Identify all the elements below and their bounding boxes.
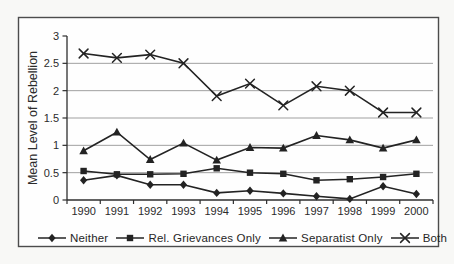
square-marker-icon — [80, 168, 86, 174]
x-tick-label: 1990 — [71, 205, 95, 217]
x-tick-label: 1996 — [271, 205, 295, 217]
y-axis-title: Mean Level of Rebellion — [26, 51, 40, 185]
square-marker-icon — [347, 176, 353, 182]
square-marker-icon — [280, 171, 286, 177]
legend-item-separatist-only: Separatist Only — [269, 232, 383, 244]
x-tick-label: 1992 — [138, 205, 162, 217]
legend-key-triangle — [269, 232, 297, 244]
x-tick-label: 1997 — [304, 205, 328, 217]
square-marker-icon — [247, 170, 253, 176]
x-tick-label: 1998 — [338, 205, 362, 217]
legend-label: Separatist Only — [301, 232, 383, 244]
square-marker-icon — [214, 165, 220, 171]
figure-canvas: 00.511.522.53 19901991199219931994199519… — [0, 0, 454, 264]
square-marker-icon — [413, 171, 419, 177]
legend-key-square — [116, 232, 144, 244]
legend-label: Both — [423, 232, 447, 244]
chart-legend: NeitherRel. Grievances OnlySeparatist On… — [48, 228, 437, 247]
legend-label: Rel. Grievances Only — [148, 232, 261, 244]
y-tick-label: 2.5 — [44, 57, 59, 69]
legend-item-neither: Neither — [38, 232, 108, 244]
square-marker-icon — [114, 171, 120, 177]
y-tick-label: 2 — [53, 85, 59, 97]
legend-key-x — [391, 232, 419, 244]
y-tick-label: 1 — [53, 139, 59, 151]
legend-key-diamond — [38, 232, 66, 244]
x-tick-label: 1999 — [371, 205, 395, 217]
y-tick-label: 1.5 — [44, 112, 59, 124]
legend-item-both: Both — [391, 232, 447, 244]
diamond-marker-icon — [48, 233, 55, 241]
x-tick-label: 2000 — [404, 205, 428, 217]
legend-label: Neither — [70, 232, 108, 244]
y-tick-label: 3 — [53, 30, 59, 42]
y-tick-label: 0.5 — [44, 167, 59, 179]
y-tick-label: 0 — [53, 194, 59, 206]
square-marker-icon — [127, 234, 133, 240]
legend-item-rel-grievances-only: Rel. Grievances Only — [116, 232, 261, 244]
rebellion-line-chart: 00.511.522.53 19901991199219931994199519… — [0, 0, 454, 264]
square-marker-icon — [380, 174, 386, 180]
x-tick-label: 1993 — [171, 205, 195, 217]
x-tick-label: 1995 — [238, 205, 262, 217]
x-tick-label: 1994 — [204, 205, 228, 217]
x-tick-label: 1991 — [105, 205, 129, 217]
square-marker-icon — [313, 177, 319, 183]
square-marker-icon — [180, 171, 186, 177]
square-marker-icon — [147, 171, 153, 177]
